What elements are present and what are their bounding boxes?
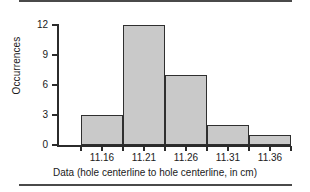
bar-series — [0, 0, 310, 192]
histogram-figure: Occurrences 036912 11.1611.2111.2611.311… — [0, 0, 310, 192]
histogram-bar — [207, 125, 249, 145]
histogram-bar — [249, 135, 291, 145]
x-axis-title: Data (hole centerline to hole centerline… — [0, 167, 310, 178]
histogram-bar — [123, 25, 165, 145]
histogram-bar — [81, 115, 123, 145]
histogram-bar — [165, 75, 207, 145]
